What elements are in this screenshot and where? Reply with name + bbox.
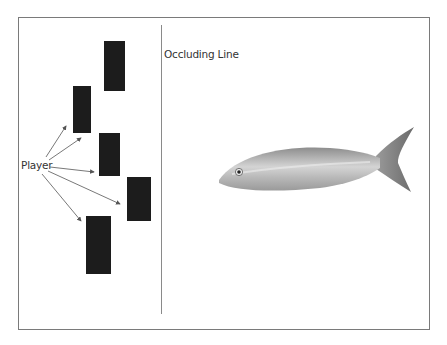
arrow-to-block-2b bbox=[49, 138, 81, 160]
arrow-to-block-3 bbox=[50, 167, 94, 172]
sight-arrows bbox=[42, 126, 120, 221]
arrow-to-block-2 bbox=[46, 126, 66, 157]
arrow-to-block-4 bbox=[48, 171, 120, 204]
arrows-and-fish bbox=[0, 0, 447, 345]
fish-icon bbox=[219, 127, 414, 192]
arrow-to-block-5 bbox=[42, 174, 81, 221]
